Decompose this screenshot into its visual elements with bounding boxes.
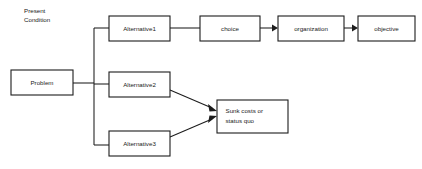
arrowhead-into-objective: [352, 25, 358, 32]
flowchart-diagram: Present Condition Problem: [0, 0, 422, 169]
node-problem[interactable]: Problem: [11, 70, 73, 95]
edge-alternative3-to-sunk-costs: [170, 119, 212, 137]
node-sunk-costs-label-line-1: Sunk costs or: [226, 107, 264, 114]
node-organization-label: organization: [294, 25, 328, 32]
node-sunk-costs[interactable]: Sunk costs or status quo: [217, 100, 288, 133]
node-choice[interactable]: choice: [200, 16, 260, 41]
node-sunk-costs-label-line-2: status quo: [226, 117, 255, 124]
node-choice-label: choice: [221, 25, 239, 32]
present-condition-line-2: Condition: [24, 16, 51, 23]
arrowhead-into-sunk-costs-upper: [208, 104, 217, 112]
node-alternative2[interactable]: Alternative2: [109, 72, 170, 97]
node-alternative2-label: Alternative2: [123, 81, 156, 88]
diagram-canvas: Present Condition Problem: [0, 0, 422, 169]
edge-alternative2-to-sunk-costs: [170, 90, 212, 108]
arrowhead-into-organization: [272, 25, 278, 32]
label-present-condition: Present Condition: [24, 7, 51, 23]
node-alternative3[interactable]: Alternative3: [109, 131, 170, 156]
node-alternative1[interactable]: Alternative1: [109, 16, 170, 41]
node-objective[interactable]: objective: [358, 16, 415, 41]
node-organization[interactable]: organization: [278, 16, 344, 41]
node-alternative1-label: Alternative1: [123, 25, 156, 32]
node-alternative3-label: Alternative3: [123, 140, 156, 147]
node-problem-label: Problem: [30, 79, 53, 86]
arrowhead-into-sunk-costs-lower: [208, 116, 217, 124]
present-condition-line-1: Present: [24, 7, 46, 14]
node-objective-label: objective: [374, 25, 399, 32]
